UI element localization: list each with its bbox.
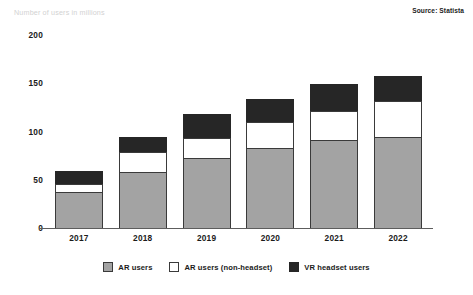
y-tick-label: 100	[29, 127, 43, 137]
bar-group: 2018	[119, 0, 167, 295]
bar-segment[interactable]	[310, 140, 358, 228]
legend-item[interactable]: VR headset users	[289, 262, 369, 272]
legend-swatch-icon	[169, 262, 179, 272]
bar-segment[interactable]	[119, 152, 167, 172]
legend-swatch-icon	[103, 262, 113, 272]
chart-container: Number of users in millions Source: Stat…	[0, 0, 473, 295]
stacked-bar[interactable]	[246, 99, 294, 228]
chart-legend: AR usersAR users (non-headset)VR headset…	[0, 262, 473, 272]
y-tick-label: 200	[29, 30, 43, 40]
x-tick-label: 2020	[246, 233, 294, 243]
bar-group: 2019	[183, 0, 231, 295]
legend-label: AR users	[118, 263, 152, 272]
bar-segment[interactable]	[310, 111, 358, 140]
x-tick-label: 2019	[183, 233, 231, 243]
bar-segment[interactable]	[55, 192, 103, 228]
x-tick-label: 2018	[119, 233, 167, 243]
x-tick-label: 2017	[55, 233, 103, 243]
bar-segment[interactable]	[246, 148, 294, 228]
stacked-bar[interactable]	[55, 171, 103, 228]
bar-segment[interactable]	[310, 84, 358, 111]
bar-segment[interactable]	[374, 76, 422, 101]
stacked-bar[interactable]	[374, 76, 422, 228]
bar-group: 2020	[246, 0, 294, 295]
bar-segment[interactable]	[183, 138, 231, 157]
bar-segment[interactable]	[119, 137, 167, 151]
legend-swatch-icon	[289, 262, 299, 272]
legend-label: AR users (non-headset)	[184, 263, 272, 272]
y-tick-label: 50	[33, 175, 43, 185]
bar-segment[interactable]	[183, 158, 231, 228]
bar-group: 2022	[374, 0, 422, 295]
bar-group: 2021	[310, 0, 358, 295]
legend-label: VR headset users	[304, 263, 369, 272]
bar-series-area: 201720182019202020212022	[47, 0, 430, 295]
y-axis-ticks: 050100150200	[14, 0, 43, 295]
y-tick-label: 150	[29, 78, 43, 88]
stacked-bar[interactable]	[119, 137, 167, 228]
bar-segment[interactable]	[246, 99, 294, 122]
bar-group: 2017	[55, 0, 103, 295]
x-tick-label: 2021	[310, 233, 358, 243]
bar-segment[interactable]	[183, 114, 231, 138]
bar-segment[interactable]	[374, 101, 422, 138]
bar-segment[interactable]	[55, 184, 103, 193]
bar-segment[interactable]	[119, 172, 167, 228]
stacked-bar[interactable]	[183, 114, 231, 228]
bar-segment[interactable]	[374, 137, 422, 228]
bar-segment[interactable]	[246, 122, 294, 148]
bar-segment[interactable]	[55, 171, 103, 184]
legend-item[interactable]: AR users (non-headset)	[169, 262, 272, 272]
stacked-bar[interactable]	[310, 84, 358, 228]
x-tick-label: 2022	[374, 233, 422, 243]
legend-item[interactable]: AR users	[103, 262, 152, 272]
